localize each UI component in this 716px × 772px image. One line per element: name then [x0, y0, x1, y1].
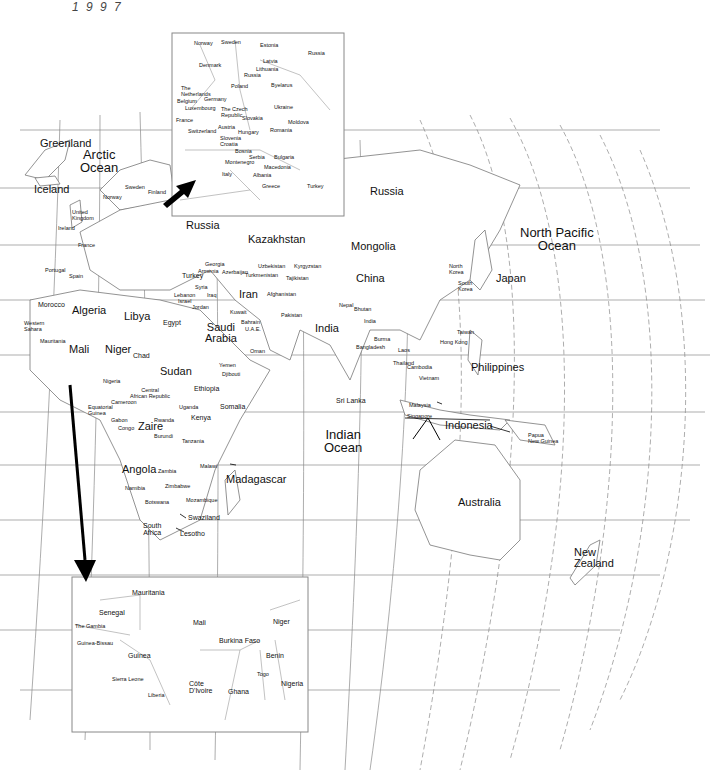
label-uganda: Uganda — [179, 405, 198, 411]
inset-eu-sweden: Sweden — [221, 40, 241, 46]
inset-eu-luxembourg: Luxembourg — [185, 106, 216, 112]
label-tanzania: Tanzania — [182, 439, 204, 445]
label-morocco: Morocco — [38, 301, 65, 308]
label-uzbekistan: Uzbekistan — [258, 264, 285, 270]
label-zimbabwe: Zimbabwe — [165, 484, 190, 490]
inset-eu-estonia: Estonia — [260, 43, 278, 49]
label-bangladesh: Bangladesh — [356, 345, 385, 351]
label-spain: Spain — [69, 274, 83, 280]
label-vietnam: Vietnam — [419, 376, 439, 382]
label-laos: Laos — [398, 348, 410, 354]
inset-wa-mali: Mali — [193, 619, 206, 626]
inset-eu-france: France — [176, 118, 193, 124]
label-congo: Congo — [118, 426, 134, 432]
inset-wa-mauritania: Mauritania — [132, 589, 165, 596]
label-libya: Libya — [124, 311, 150, 322]
inset-eu-romania: Romania — [270, 128, 292, 134]
label-ireland: Ireland — [58, 226, 75, 232]
label-georgia: Georgia — [205, 262, 225, 268]
label-zambia: Zambia — [158, 469, 176, 475]
label-egypt: Egypt — [163, 319, 181, 326]
label-swaziland: Swaziland — [188, 514, 220, 521]
inset-wa-guinea-bissau: Guinea-Bissau — [77, 641, 113, 647]
inset-wa-liberia: Liberia — [148, 693, 165, 699]
inset-wa-senegal: Senegal — [99, 609, 125, 616]
ocean-label-arctic: Arctic Ocean — [80, 148, 118, 174]
inset-eu-slovakia: Slovakia — [242, 116, 263, 122]
inset-eu-germany: Germany — [204, 97, 227, 103]
label-india-small: India — [364, 319, 376, 325]
label-angola: Angola — [122, 464, 156, 475]
label-portugal: Portugal — [45, 268, 66, 274]
inset-eu-norway: Norway — [194, 41, 213, 47]
label-russia-west: Russia — [186, 220, 220, 231]
label-bahrain: Bahrain — [241, 320, 260, 326]
inset-eu-greece: Greece — [262, 184, 280, 190]
label-burma: Burma — [374, 337, 390, 343]
label-iceland: Iceland — [34, 184, 69, 195]
label-tajikistan: Tajikistan — [286, 276, 309, 282]
inset-wa-ghana: Ghana — [228, 688, 249, 695]
label-jordan: Jordan — [192, 305, 209, 311]
inset-eu-poland: Poland — [231, 84, 248, 90]
label-united-kingdom: United Kingdom — [72, 210, 94, 221]
inset-eu-denmark: Denmark — [199, 63, 221, 69]
label-cambodia: Cambodia — [407, 365, 432, 371]
label-israel: Israel — [178, 299, 191, 305]
label-uae: U.A.E. — [245, 327, 261, 333]
label-oman: Oman — [250, 349, 265, 355]
inset-wa-sierra-leone: Sierra Leone — [112, 677, 144, 683]
label-russia-east: Russia — [370, 186, 404, 197]
label-saudi-arabia: Saudi Arabia — [205, 322, 237, 344]
inset-eu-ukraine: Ukraine — [274, 105, 293, 111]
label-south-africa: South Africa — [143, 522, 161, 536]
label-iraq: Iraq — [207, 293, 216, 299]
label-afghanistan: Afghanistan — [267, 292, 296, 298]
label-sri-lanka: Sri Lanka — [336, 397, 366, 404]
label-namibia: Namibia — [125, 486, 145, 492]
inset-wa-burkina-faso: Burkina Faso — [219, 637, 260, 644]
label-papua-new-guinea: Papua New Guinea — [528, 433, 558, 444]
label-china: China — [356, 273, 385, 284]
label-malaysia: Malaysia — [409, 403, 431, 409]
label-taiwan: Taiwan — [457, 330, 474, 336]
label-sudan: Sudan — [160, 366, 192, 377]
inset-eu-austria: Austria — [218, 125, 235, 131]
label-madagascar: Madagascar — [226, 474, 287, 485]
label-indonesia: Indonesia — [445, 420, 493, 431]
inset-wa-cote-divoire: Côte D'Ivoire — [189, 680, 213, 694]
label-botswana: Botswana — [145, 500, 169, 506]
inset-eu-italy: Italy — [222, 172, 232, 178]
label-japan: Japan — [496, 273, 526, 284]
label-yemen: Yemen — [219, 363, 236, 369]
label-ethiopia: Ethiopia — [194, 385, 219, 392]
label-france: France — [78, 243, 95, 249]
label-greenland: Greenland — [40, 138, 91, 149]
label-kazakhstan: Kazakhstan — [248, 234, 305, 245]
label-singapore: Singapore — [407, 414, 432, 420]
inset-wa-the-gambia: The Gambia — [75, 624, 105, 630]
label-central-african-republic: Central African Republic — [130, 388, 170, 399]
label-mauritania: Mauritania — [40, 339, 66, 345]
inset-eu-croatia: Croatia — [220, 142, 238, 148]
inset-wa-guinea: Guinea — [128, 652, 151, 659]
world-map — [0, 0, 716, 772]
label-nepal: Nepal — [339, 303, 353, 309]
inset-eu-russia: Russia — [308, 51, 325, 57]
label-iran: Iran — [239, 289, 258, 300]
inset-wa-nigeria: Nigeria — [281, 680, 303, 687]
inset-eu-moldova: Moldova — [288, 120, 309, 126]
label-nigeria: Nigeria — [103, 379, 120, 385]
label-malawi: Malawi — [200, 464, 217, 470]
label-kyrgyzstan: Kyrgyzstan — [294, 264, 321, 270]
label-bhutan: Bhutan — [354, 307, 371, 313]
inset-eu-belgium: Belgium — [177, 99, 197, 105]
label-pakistan: Pakistan — [281, 313, 302, 319]
label-north-korea: North Korea — [449, 264, 464, 275]
inset-wa-togo: Togo — [257, 672, 269, 678]
inset-eu-byelarus: Byelarus — [271, 83, 292, 89]
label-mali: Mali — [69, 344, 89, 355]
inset-eu-switzerland: Switzerland — [188, 129, 216, 135]
label-hong-kong: Hong Kong — [440, 340, 468, 346]
inset-eu-russia-small: Russia — [244, 73, 261, 79]
